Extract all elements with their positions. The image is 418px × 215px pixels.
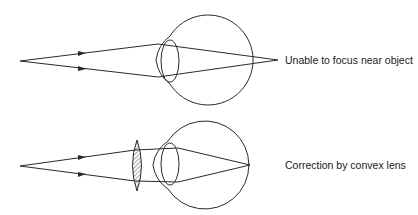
caption-corrected: Correction by convex lens <box>285 159 406 171</box>
ray-upper <box>20 44 278 61</box>
eyeball-outline <box>153 121 249 209</box>
eyeball-outline <box>156 15 253 105</box>
convex-lens <box>133 140 142 191</box>
caption-uncorrected: Unable to focus near object <box>285 54 413 66</box>
arrow-icon <box>78 155 86 160</box>
eye-diagram <box>0 0 418 215</box>
uncorrected-eye-panel <box>20 15 278 105</box>
eye-lens <box>161 143 179 185</box>
corrected-eye-panel <box>20 121 250 209</box>
ray-lower <box>20 60 278 77</box>
